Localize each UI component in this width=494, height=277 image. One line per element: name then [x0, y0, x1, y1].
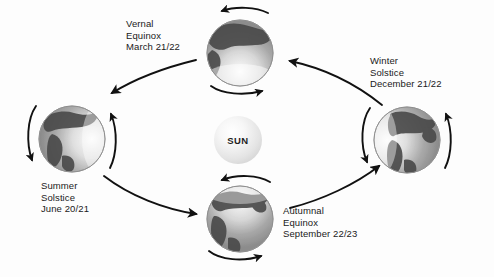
label-line-season-2: Solstice: [370, 67, 442, 79]
label-vernal-equinox: Vernal Equinox March 21/22: [126, 18, 180, 53]
seasons-diagram: SUN Vernal Equinox March 21/22 Winter So…: [0, 0, 494, 277]
rotation-arrow-top: [222, 176, 270, 182]
label-line-season-2: Equinox: [283, 217, 357, 229]
label-winter-solstice: Winter Solstice December 21/22: [370, 55, 442, 90]
globe-autumnal-equinox: [204, 178, 276, 254]
label-line-date: September 22/23: [283, 228, 357, 240]
rotation-arrow-right: [445, 114, 451, 168]
label-autumnal-equinox: Autumnal Equinox September 22/23: [283, 205, 357, 240]
globe-summer-solstice: [39, 103, 118, 175]
label-line-season-1: Summer: [41, 180, 89, 192]
label-line-season-2: Equinox: [126, 30, 180, 42]
label-line-date: December 21/22: [370, 78, 442, 90]
arrow-summer-to-autumnal: [104, 176, 196, 214]
sun-graphic: SUN: [214, 116, 262, 164]
label-line-date: June 20/21: [41, 203, 89, 215]
label-line-season-1: Autumnal: [283, 205, 357, 217]
label-line-season-1: Winter: [370, 55, 442, 67]
rotation-arrow-bottom: [211, 86, 262, 94]
rotation-arrow-left: [28, 106, 36, 160]
label-line-season-2: Solstice: [41, 192, 89, 204]
rotation-arrow-right: [110, 114, 116, 168]
rotation-arrow-left: [362, 108, 370, 162]
arrow-winter-to-vernal: [290, 61, 382, 105]
rotation-arrow-top: [222, 8, 268, 13]
sun-label: SUN: [227, 135, 248, 146]
label-line-date: March 21/22: [126, 41, 180, 53]
arrow-vernal-to-summer: [112, 60, 196, 93]
rotation-arrow-bottom: [209, 251, 261, 259]
label-line-season-1: Vernal: [126, 18, 180, 30]
globe-vernal-equinox: [204, 20, 276, 92]
label-summer-solstice: Summer Solstice June 20/21: [41, 180, 89, 215]
arrow-autumnal-to-winter: [290, 166, 379, 208]
globe-winter-solstice: [361, 104, 440, 176]
